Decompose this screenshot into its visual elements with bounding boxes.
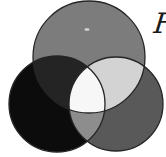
speck-artifact	[84, 28, 89, 30]
figure-canvas: F	[0, 0, 166, 157]
venn-diagram	[0, 0, 166, 157]
caption-letter-fragment: F	[153, 10, 166, 38]
